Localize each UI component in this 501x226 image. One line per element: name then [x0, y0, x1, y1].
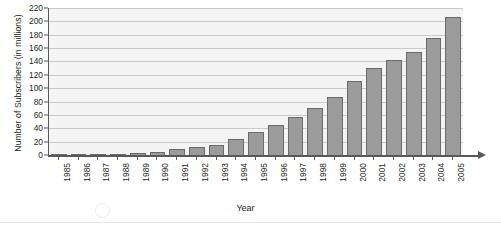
x-tick-mark [413, 156, 414, 160]
x-tick-label: 1987 [101, 163, 111, 203]
y-tick-label: 100 [29, 83, 43, 93]
y-tick-mark [44, 34, 48, 35]
bar [445, 17, 461, 156]
y-tick-label: 140 [29, 56, 43, 66]
y-tick-label: 40 [34, 123, 43, 133]
x-tick-mark [275, 156, 276, 160]
bar [366, 68, 382, 156]
y-tick-label: 200 [29, 16, 43, 26]
watermark-circle-icon [95, 203, 110, 218]
x-tick-label: 1993 [220, 163, 230, 203]
bottom-divider [0, 222, 501, 223]
x-tick-mark [78, 156, 79, 160]
x-tick-label: 2003 [417, 163, 427, 203]
x-tick-label: 1995 [259, 163, 269, 203]
x-tick-label: 1991 [180, 163, 190, 203]
x-axis-title-text: Year [236, 203, 254, 213]
x-tick-mark [216, 156, 217, 160]
x-tick-mark [373, 156, 374, 160]
x-tick-mark [334, 156, 335, 160]
x-tick-mark [354, 156, 355, 160]
x-tick-label: 1990 [160, 163, 170, 203]
x-tick-mark [97, 156, 98, 160]
y-axis-tick-labels: 020406080100120140160180200220 [17, 0, 43, 226]
y-tick-label: 60 [34, 110, 43, 120]
x-tick-mark [314, 156, 315, 160]
bar [228, 139, 244, 156]
x-axis-title: Year [0, 203, 501, 213]
x-tick-label: 1994 [239, 163, 249, 203]
x-tick-label: 2005 [456, 163, 466, 203]
y-tick-mark [44, 74, 48, 75]
y-tick-mark [44, 88, 48, 89]
bar-chart-figure: Number of Subscribers (in millions) 0204… [0, 0, 501, 226]
x-tick-label: 2004 [436, 163, 446, 203]
x-tick-mark [432, 156, 433, 160]
x-axis-line [48, 155, 480, 157]
x-tick-mark [137, 156, 138, 160]
y-tick-label: 0 [38, 150, 43, 160]
x-tick-mark [255, 156, 256, 160]
bar [386, 60, 402, 156]
y-tick-mark [44, 21, 48, 22]
x-tick-mark [176, 156, 177, 160]
y-tick-mark [44, 101, 48, 102]
x-tick-mark [156, 156, 157, 160]
x-axis-arrow-icon [478, 151, 486, 159]
x-tick-label: 2002 [397, 163, 407, 203]
plot-area [48, 8, 463, 156]
bar [288, 117, 304, 156]
x-tick-label: 1996 [279, 163, 289, 203]
x-tick-mark [452, 156, 453, 160]
x-tick-label: 1985 [62, 163, 72, 203]
x-tick-label: 2001 [377, 163, 387, 203]
y-tick-label: 160 [29, 43, 43, 53]
x-tick-label: 1988 [121, 163, 131, 203]
x-tick-mark [58, 156, 59, 160]
x-tick-label: 1989 [141, 163, 151, 203]
bar [307, 108, 323, 156]
x-tick-mark [235, 156, 236, 160]
bar [248, 132, 264, 156]
y-tick-mark [44, 61, 48, 62]
x-tick-mark [117, 156, 118, 160]
bar [347, 81, 363, 156]
y-tick-label: 20 [34, 137, 43, 147]
bar-series [49, 8, 463, 156]
x-tick-label: 1999 [338, 163, 348, 203]
x-tick-mark [196, 156, 197, 160]
y-tick-mark [44, 128, 48, 129]
y-tick-mark [44, 48, 48, 49]
x-tick-label: 1997 [298, 163, 308, 203]
x-tick-label: 1992 [200, 163, 210, 203]
x-tick-mark [294, 156, 295, 160]
x-tick-label: 2000 [358, 163, 368, 203]
y-tick-label: 80 [34, 97, 43, 107]
x-tick-mark [393, 156, 394, 160]
y-tick-label: 120 [29, 70, 43, 80]
bar [406, 52, 422, 156]
y-tick-mark [44, 114, 48, 115]
bar [268, 125, 284, 156]
x-tick-label: 1998 [318, 163, 328, 203]
bar [327, 97, 343, 156]
y-tick-label: 180 [29, 30, 43, 40]
y-tick-label: 220 [29, 3, 43, 13]
y-tick-mark [44, 155, 48, 156]
y-tick-mark [44, 8, 48, 9]
bar [426, 38, 442, 156]
y-tick-mark [44, 141, 48, 142]
x-tick-label: 1986 [82, 163, 92, 203]
